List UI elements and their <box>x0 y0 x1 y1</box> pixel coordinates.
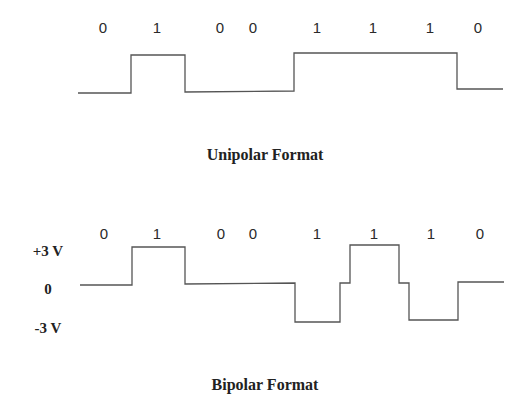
unipolar-bit-label: 1 <box>313 19 321 36</box>
voltage-level-label: 0 <box>44 281 52 297</box>
unipolar-bit-label: 0 <box>474 19 482 36</box>
bipolar-bit-label: 1 <box>427 225 435 242</box>
unipolar-bit-label: 1 <box>369 19 377 36</box>
unipolar-waveform <box>78 53 503 93</box>
voltage-level-label: +3 V <box>33 243 64 259</box>
bipolar-bit-label: 1 <box>370 225 378 242</box>
bipolar-bit-label: 0 <box>217 225 225 242</box>
bipolar-bit-label: 0 <box>249 225 257 242</box>
unipolar-bit-label: 0 <box>249 19 257 36</box>
bipolar-bit-label: 0 <box>476 225 484 242</box>
bipolar-bit-label: 1 <box>313 225 321 242</box>
unipolar-bit-labels: 01001110 <box>99 19 482 36</box>
unipolar-bit-label: 0 <box>216 19 224 36</box>
bipolar-voltage-labels: +3 V0-3 V <box>33 243 64 336</box>
unipolar-caption: Unipolar Format <box>207 146 324 164</box>
unipolar-bit-label: 0 <box>99 19 107 36</box>
bipolar-caption: Bipolar Format <box>212 376 319 394</box>
voltage-level-label: -3 V <box>35 320 62 336</box>
bipolar-bit-label: 1 <box>153 225 161 242</box>
unipolar-bit-label: 1 <box>153 19 161 36</box>
line-coding-diagram: 01001110 Unipolar Format 01001110 +3 V0-… <box>0 0 530 394</box>
bipolar-bit-labels: 01001110 <box>100 225 484 242</box>
bipolar-waveform <box>80 245 504 322</box>
bipolar-bit-label: 0 <box>100 225 108 242</box>
bipolar-diagram: 01001110 +3 V0-3 V Bipolar Format <box>33 225 504 394</box>
unipolar-diagram: 01001110 Unipolar Format <box>78 19 503 164</box>
unipolar-bit-label: 1 <box>426 19 434 36</box>
